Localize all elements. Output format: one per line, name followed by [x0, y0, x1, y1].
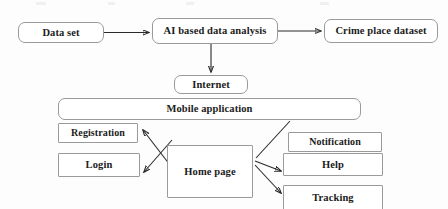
flowchart-diagram: Data set AI based data analysis Crime pl… [0, 0, 448, 209]
node-label: Internet [192, 79, 230, 90]
scan-artifact [320, 2, 329, 5]
node-label: Notification [309, 137, 361, 148]
scan-artifact [108, 2, 115, 5]
node-home-page[interactable]: Home page [167, 145, 253, 198]
node-data-set[interactable]: Data set [18, 22, 104, 43]
node-label: Crime place dataset [335, 25, 426, 36]
node-tracking[interactable]: Tracking [283, 185, 383, 209]
node-label: Login [86, 159, 113, 170]
scan-artifact [186, 2, 194, 5]
node-label: Data set [42, 27, 79, 38]
edge-homepage-to-tracking [255, 165, 281, 193]
node-login[interactable]: Login [58, 153, 140, 177]
node-label: AI based data analysis [164, 25, 267, 36]
node-label: Registration [71, 128, 125, 139]
node-mobile-application[interactable]: Mobile application [58, 98, 361, 120]
node-label: Help [322, 159, 344, 170]
node-notification[interactable]: Notification [288, 132, 382, 152]
node-internet[interactable]: Internet [174, 75, 248, 94]
node-registration[interactable]: Registration [58, 123, 138, 143]
node-ai-based-data-analysis[interactable]: AI based data analysis [152, 18, 278, 44]
node-label: Home page [184, 166, 235, 177]
node-crime-place-dataset[interactable]: Crime place dataset [324, 19, 438, 43]
edge-homepage-to-help [255, 161, 281, 171]
node-label: Mobile application [166, 103, 252, 114]
node-label: Tracking [312, 192, 353, 203]
scan-artifact [36, 2, 46, 5]
node-help[interactable]: Help [283, 153, 383, 176]
